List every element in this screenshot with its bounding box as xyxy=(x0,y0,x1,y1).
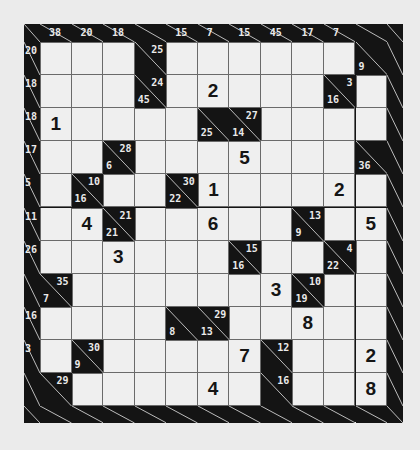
puzzle-cell[interactable]: 2 xyxy=(324,174,356,207)
puzzle-cell[interactable] xyxy=(229,75,261,108)
puzzle-cell[interactable] xyxy=(198,141,230,174)
puzzle-cell[interactable] xyxy=(324,274,356,307)
puzzle-cell[interactable] xyxy=(229,42,261,75)
puzzle-cell[interactable] xyxy=(103,108,135,141)
puzzle-cell[interactable] xyxy=(229,174,261,207)
puzzle-cell[interactable] xyxy=(72,307,104,340)
puzzle-cell[interactable] xyxy=(40,241,72,274)
puzzle-cell[interactable] xyxy=(324,340,356,373)
puzzle-cell[interactable] xyxy=(40,75,72,108)
puzzle-cell[interactable] xyxy=(135,174,167,207)
puzzle-cell[interactable]: 2 xyxy=(356,340,388,373)
puzzle-cell[interactable]: 1 xyxy=(198,174,230,207)
puzzle-cell[interactable] xyxy=(166,373,198,406)
puzzle-cell[interactable] xyxy=(198,42,230,75)
puzzle-cell[interactable] xyxy=(324,108,356,141)
puzzle-cell[interactable] xyxy=(356,241,388,274)
puzzle-cell[interactable]: 7 xyxy=(229,340,261,373)
puzzle-cell[interactable] xyxy=(198,340,230,373)
puzzle-cell[interactable] xyxy=(356,75,388,108)
puzzle-cell[interactable] xyxy=(324,42,356,75)
puzzle-cell[interactable] xyxy=(356,307,388,340)
puzzle-cell[interactable]: 5 xyxy=(229,141,261,174)
puzzle-cell[interactable] xyxy=(324,208,356,241)
puzzle-cell[interactable] xyxy=(103,307,135,340)
puzzle-cell[interactable]: 5 xyxy=(356,208,388,241)
puzzle-cell[interactable]: 3 xyxy=(261,274,293,307)
puzzle-cell[interactable]: 3 xyxy=(103,241,135,274)
puzzle-cell[interactable] xyxy=(261,208,293,241)
puzzle-cell[interactable] xyxy=(198,274,230,307)
puzzle-cell[interactable] xyxy=(135,241,167,274)
puzzle-cell[interactable] xyxy=(229,307,261,340)
puzzle-cell[interactable] xyxy=(261,108,293,141)
puzzle-cell[interactable] xyxy=(40,174,72,207)
puzzle-cell[interactable] xyxy=(166,42,198,75)
puzzle-cell[interactable] xyxy=(292,174,324,207)
puzzle-cell[interactable] xyxy=(356,174,388,207)
puzzle-cell[interactable] xyxy=(103,274,135,307)
puzzle-cell[interactable] xyxy=(292,373,324,406)
puzzle-cell[interactable] xyxy=(229,274,261,307)
puzzle-cell[interactable] xyxy=(40,141,72,174)
puzzle-cell[interactable] xyxy=(40,208,72,241)
puzzle-cell[interactable] xyxy=(261,307,293,340)
puzzle-cell[interactable] xyxy=(166,274,198,307)
puzzle-cell[interactable] xyxy=(40,340,72,373)
puzzle-cell[interactable] xyxy=(166,241,198,274)
puzzle-cell[interactable] xyxy=(103,42,135,75)
puzzle-cell[interactable] xyxy=(356,274,388,307)
puzzle-cell[interactable] xyxy=(135,208,167,241)
puzzle-cell[interactable] xyxy=(166,141,198,174)
puzzle-cell[interactable]: 8 xyxy=(292,307,324,340)
puzzle-cell[interactable] xyxy=(356,108,388,141)
puzzle-cell[interactable] xyxy=(72,241,104,274)
clue-block: 8 xyxy=(166,307,198,340)
puzzle-cell[interactable]: 6 xyxy=(198,208,230,241)
puzzle-cell[interactable] xyxy=(40,42,72,75)
puzzle-cell[interactable] xyxy=(166,108,198,141)
puzzle-cell[interactable] xyxy=(72,108,104,141)
puzzle-cell[interactable] xyxy=(166,340,198,373)
puzzle-cell[interactable] xyxy=(292,241,324,274)
puzzle-cell[interactable]: 8 xyxy=(356,373,388,406)
puzzle-cell[interactable] xyxy=(103,174,135,207)
puzzle-cell[interactable] xyxy=(198,241,230,274)
puzzle-cell[interactable] xyxy=(72,274,104,307)
puzzle-cell[interactable] xyxy=(135,340,167,373)
puzzle-cell[interactable] xyxy=(103,75,135,108)
puzzle-cell[interactable]: 4 xyxy=(198,373,230,406)
puzzle-cell[interactable] xyxy=(292,42,324,75)
puzzle-cell[interactable] xyxy=(292,340,324,373)
puzzle-cell[interactable] xyxy=(72,373,104,406)
puzzle-cell[interactable] xyxy=(229,208,261,241)
puzzle-cell[interactable] xyxy=(324,141,356,174)
puzzle-cell[interactable] xyxy=(135,373,167,406)
puzzle-cell[interactable] xyxy=(72,42,104,75)
puzzle-cell[interactable]: 2 xyxy=(198,75,230,108)
puzzle-cell[interactable] xyxy=(261,141,293,174)
puzzle-cell[interactable] xyxy=(40,307,72,340)
puzzle-cell[interactable] xyxy=(261,75,293,108)
puzzle-cell[interactable] xyxy=(261,241,293,274)
puzzle-cell[interactable] xyxy=(72,141,104,174)
puzzle-cell[interactable] xyxy=(135,141,167,174)
puzzle-cell[interactable] xyxy=(261,42,293,75)
puzzle-cell[interactable] xyxy=(292,141,324,174)
puzzle-cell[interactable] xyxy=(324,307,356,340)
puzzle-cell[interactable]: 4 xyxy=(72,208,104,241)
puzzle-cell[interactable] xyxy=(135,108,167,141)
puzzle-cell[interactable] xyxy=(261,174,293,207)
puzzle-cell[interactable] xyxy=(292,108,324,141)
puzzle-cell[interactable] xyxy=(292,75,324,108)
puzzle-cell[interactable] xyxy=(324,373,356,406)
puzzle-cell[interactable] xyxy=(135,274,167,307)
puzzle-cell[interactable] xyxy=(103,373,135,406)
puzzle-cell[interactable] xyxy=(72,75,104,108)
puzzle-cell[interactable] xyxy=(166,75,198,108)
puzzle-cell[interactable]: 1 xyxy=(40,108,72,141)
puzzle-cell[interactable] xyxy=(135,307,167,340)
puzzle-cell[interactable] xyxy=(103,340,135,373)
puzzle-cell[interactable] xyxy=(166,208,198,241)
puzzle-cell[interactable] xyxy=(229,373,261,406)
